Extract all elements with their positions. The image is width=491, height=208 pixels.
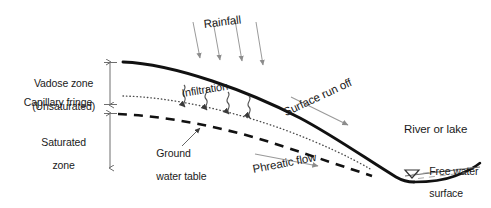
free-water-line1: Free water bbox=[429, 165, 478, 177]
label-ground-water-table: Ground water table bbox=[145, 136, 237, 195]
vadose-zone-line1: Vadose zone bbox=[34, 77, 93, 89]
label-saturated-zone: Saturated zone bbox=[14, 125, 102, 184]
saturated-zone-line1: Saturated bbox=[41, 136, 86, 148]
label-free-water-surface: Free water surface bbox=[418, 155, 482, 208]
label-capillary-fringe: Capillary fringe bbox=[10, 97, 106, 109]
ground-water-table-line2: water table bbox=[156, 170, 206, 182]
ground-water-table-line1: Ground bbox=[156, 147, 190, 159]
hydrogeology-diagram: Vadose zone (Unsaturated) Capillary frin… bbox=[0, 0, 491, 208]
saturated-extent-arrow bbox=[104, 113, 117, 168]
free-water-line2: surface bbox=[429, 187, 463, 199]
saturated-zone-line2: zone bbox=[52, 159, 74, 171]
label-river-or-lake: River or lake bbox=[404, 123, 467, 136]
